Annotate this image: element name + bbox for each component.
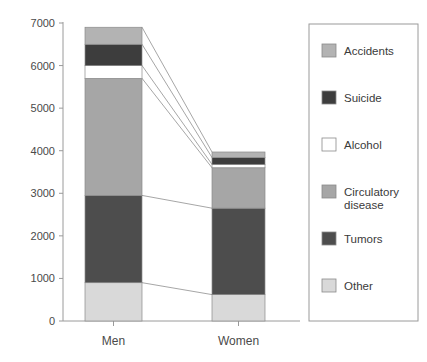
bar-segment-circulatory-disease[interactable] [85, 78, 142, 195]
y-tick-label: 6000 [31, 60, 55, 72]
bar-segment-accidents[interactable] [85, 27, 142, 44]
legend-swatch-accidents[interactable] [322, 44, 336, 57]
y-tick-label: 0 [49, 315, 55, 327]
legend-label-accidents: Accidents [344, 45, 394, 57]
legend-label-other: Other [344, 280, 373, 292]
connector-line [142, 27, 212, 152]
y-tick-label: 2000 [31, 230, 55, 242]
connector-line [142, 66, 212, 165]
bar-segment-alcohol[interactable] [85, 66, 142, 79]
x-category-label: Men [102, 334, 125, 348]
bar-segment-alcohol[interactable] [212, 164, 265, 167]
y-tick-label: 3000 [31, 187, 55, 199]
legend-swatch-circulatory-disease[interactable] [322, 185, 336, 198]
y-tick-label: 5000 [31, 102, 55, 114]
y-tick-label: 1000 [31, 272, 55, 284]
x-category-label: Women [218, 334, 259, 348]
legend-swatch-alcohol[interactable] [322, 138, 336, 151]
connector-line [142, 78, 212, 167]
connector-line [142, 44, 212, 157]
bar-segment-other[interactable] [85, 283, 142, 321]
bar-men [85, 27, 142, 321]
legend-swatch-suicide[interactable] [322, 91, 336, 104]
bar-women [212, 152, 265, 321]
y-tick-label: 4000 [31, 145, 55, 157]
connector-line [142, 195, 212, 208]
legend-swatch-tumors[interactable] [322, 232, 336, 245]
stacked-bar-chart: 01000200030004000500060007000MenWomenAcc… [0, 0, 427, 362]
legend-label-suicide: Suicide [344, 92, 382, 104]
legend-label-alcohol: Alcohol [344, 139, 382, 151]
bar-segment-tumors[interactable] [212, 208, 265, 294]
chart-canvas: 01000200030004000500060007000MenWomenAcc… [0, 0, 427, 362]
legend-label-circulatory-disease-line2: disease [344, 199, 384, 211]
connector-lines [142, 27, 212, 294]
bar-segment-tumors[interactable] [85, 195, 142, 282]
legend-label-tumors: Tumors [344, 233, 383, 245]
legend-box [309, 24, 418, 321]
bar-segment-other[interactable] [212, 295, 265, 321]
legend-label-circulatory-disease: Circulatory [344, 186, 399, 198]
bar-segment-accidents[interactable] [212, 152, 265, 158]
bar-segment-suicide[interactable] [212, 158, 265, 165]
bar-segment-circulatory-disease[interactable] [212, 168, 265, 208]
legend-swatch-other[interactable] [322, 279, 336, 292]
y-tick-label: 7000 [31, 17, 55, 29]
bar-segment-suicide[interactable] [85, 44, 142, 65]
connector-line [142, 283, 212, 295]
